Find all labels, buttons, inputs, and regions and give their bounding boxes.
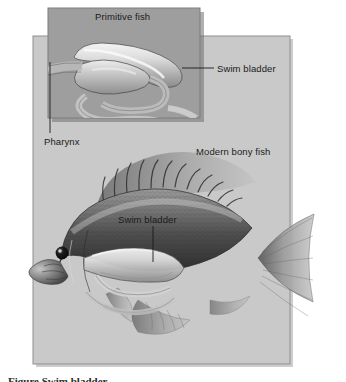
pharynx-tube — [48, 66, 82, 70]
label-swim-bladder-primitive: Swim bladder — [217, 64, 276, 74]
fish-eye — [56, 247, 69, 260]
illustration-canvas — [0, 0, 346, 382]
figure-caption: Figure Swim bladder — [8, 375, 338, 382]
figure-swim-bladder-evolution: Primitive fish Swim bladder Pharynx Mode… — [0, 0, 346, 382]
label-modern-bony-fish: Modern bony fish — [196, 147, 270, 157]
label-pharynx: Pharynx — [44, 137, 80, 147]
label-primitive-fish: Primitive fish — [95, 12, 150, 22]
label-swim-bladder-modern: Swim bladder — [118, 215, 177, 225]
